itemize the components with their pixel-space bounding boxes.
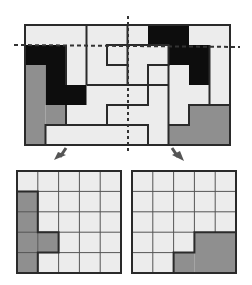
arrow-left-icon bbox=[54, 148, 66, 160]
puzzle-diagram bbox=[0, 0, 252, 285]
arrow-right-icon bbox=[172, 148, 184, 161]
bottom-left-panel bbox=[17, 171, 121, 273]
bottom-right-panel bbox=[132, 171, 236, 273]
top-puzzle-grid bbox=[14, 16, 240, 152]
